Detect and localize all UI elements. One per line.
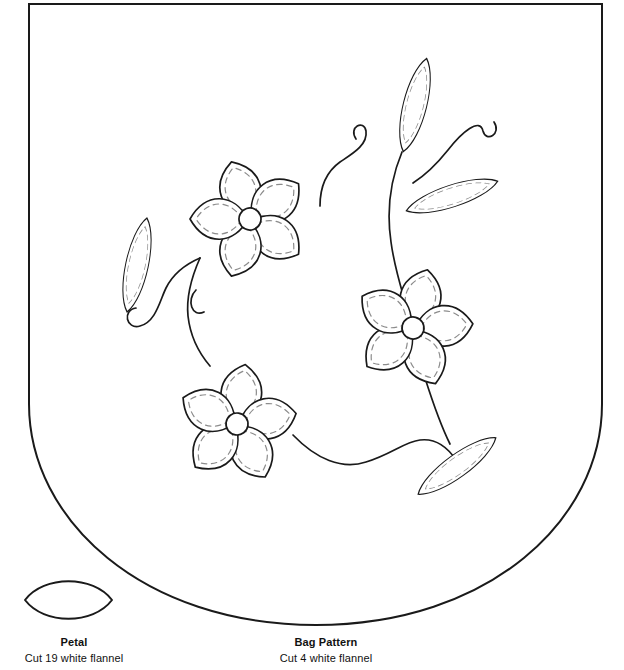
pattern-sheet <box>0 0 624 670</box>
petal-caption: Petal Cut 19 white flannel <box>0 636 148 666</box>
petal-piece-title: Petal <box>0 636 148 650</box>
bag-caption: Bag Pattern Cut 4 white flannel <box>228 636 424 666</box>
bag-piece-instruction: Cut 4 white flannel <box>228 652 424 666</box>
bag-pattern-outline <box>29 4 602 625</box>
petal-pattern-piece <box>25 581 112 619</box>
bag-piece-title: Bag Pattern <box>228 636 424 650</box>
pattern-artwork <box>0 0 624 670</box>
petal-piece-instruction: Cut 19 white flannel <box>0 652 148 666</box>
